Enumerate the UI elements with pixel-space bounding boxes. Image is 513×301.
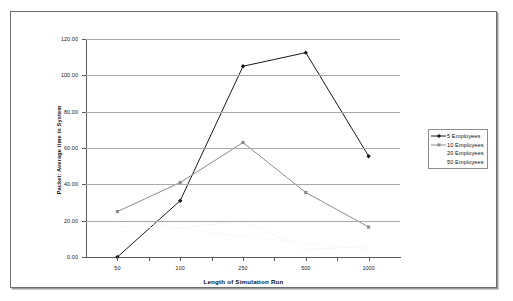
x-category-divider — [212, 257, 213, 261]
x-tick-label: 1000 — [349, 265, 389, 271]
x-axis-title: Length of Simulation Run — [86, 278, 401, 285]
legend-item[interactable]: 20 Employees — [431, 149, 484, 158]
chart-legend: 5 Employees10 Employees20 Employees50 Em… — [428, 129, 488, 169]
x-tick-mark — [243, 257, 244, 261]
y-tick-mark — [82, 221, 86, 222]
y-tick-label: 100.00 — [38, 72, 78, 78]
x-category-divider — [337, 257, 338, 261]
x-tick-label: 500 — [286, 265, 326, 271]
legend-key-icon — [431, 149, 446, 157]
legend-marker-swatch — [437, 143, 440, 146]
data-point-marker — [304, 50, 308, 54]
data-point-marker — [366, 154, 370, 158]
series-line — [117, 53, 368, 257]
data-point-marker — [241, 64, 245, 68]
chart-screenshot: Packet: Average time in System Length of… — [0, 0, 513, 301]
data-point-marker — [304, 191, 307, 194]
y-tick-label: 20.00 — [38, 218, 78, 224]
legend-item[interactable]: 10 Employees — [431, 141, 484, 150]
gridline — [86, 112, 400, 113]
y-tick-mark — [82, 112, 86, 113]
legend-item-label: 50 Employees — [446, 159, 484, 165]
gridline — [86, 184, 400, 185]
data-point-marker — [241, 141, 244, 144]
legend-key-icon — [431, 158, 446, 166]
legend-marker-swatch — [436, 134, 440, 138]
x-tick-mark — [117, 257, 118, 261]
y-tick-mark — [82, 75, 86, 76]
legend-item-label: 20 Employees — [446, 150, 484, 156]
legend-item[interactable]: 50 Employees — [431, 158, 484, 167]
x-tick-label: 50 — [97, 265, 137, 271]
data-point-marker — [116, 210, 119, 213]
gridline — [86, 75, 400, 76]
y-tick-mark — [82, 148, 86, 149]
gridline — [86, 148, 400, 149]
legend-item-label: 10 Employees — [446, 142, 484, 148]
x-tick-mark — [369, 257, 370, 261]
legend-item[interactable]: 5 Employees — [431, 132, 484, 141]
y-tick-label: 40.00 — [38, 181, 78, 187]
x-tick-mark — [306, 257, 307, 261]
plot-area — [86, 39, 400, 257]
data-point-marker — [367, 225, 370, 228]
y-tick-label: 120.00 — [38, 36, 78, 42]
series-line — [117, 226, 368, 249]
gridline — [86, 221, 400, 222]
y-tick-mark — [82, 184, 86, 185]
x-category-divider — [274, 257, 275, 261]
legend-key-icon — [431, 132, 446, 140]
y-tick-mark — [82, 39, 86, 40]
y-tick-mark — [82, 257, 86, 258]
x-category-divider — [149, 257, 150, 261]
y-tick-label: 0.00 — [38, 254, 78, 260]
x-tick-mark — [180, 257, 181, 261]
legend-key-icon — [431, 141, 446, 149]
x-tick-label: 100 — [160, 265, 200, 271]
x-tick-label: 250 — [223, 265, 263, 271]
legend-item-label: 5 Employees — [446, 133, 480, 139]
gridline — [86, 39, 400, 40]
y-tick-label: 80.00 — [38, 109, 78, 115]
chart-frame: Packet: Average time in System Length of… — [10, 11, 497, 288]
y-tick-label: 60.00 — [38, 145, 78, 151]
